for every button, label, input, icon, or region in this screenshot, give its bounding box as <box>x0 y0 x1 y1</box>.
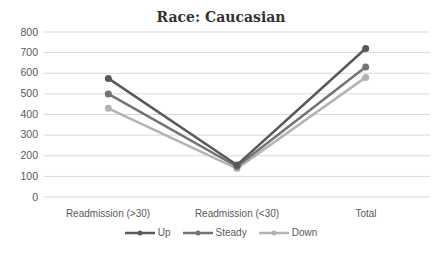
legend-marker-up-icon <box>125 228 155 238</box>
legend-label-down: Down <box>292 227 318 238</box>
legend-marker-down-icon <box>259 228 289 238</box>
data-point <box>234 162 241 169</box>
data-point <box>105 90 112 97</box>
data-point <box>105 105 112 112</box>
legend-label-up: Up <box>158 227 171 238</box>
x-tick-total: Total <box>301 208 431 219</box>
data-point <box>105 75 112 82</box>
x-tick-readmission-lt30: Readmission (<30) <box>172 208 302 219</box>
series-line-up <box>108 49 365 166</box>
legend: Up Steady Down <box>0 227 442 238</box>
data-point <box>362 45 369 52</box>
x-tick-readmission-gt30: Readmission (>30) <box>43 208 173 219</box>
data-point <box>362 74 369 81</box>
legend-item-down: Down <box>259 227 318 238</box>
series-line-down <box>108 77 365 168</box>
line-chart: Race: Caucasian 800 700 600 500 400 300 … <box>0 0 442 258</box>
data-point <box>362 64 369 71</box>
plot-area <box>0 0 442 258</box>
legend-label-steady: Steady <box>216 227 247 238</box>
legend-marker-steady-icon <box>183 228 213 238</box>
legend-item-up: Up <box>125 227 171 238</box>
legend-item-steady: Steady <box>183 227 247 238</box>
